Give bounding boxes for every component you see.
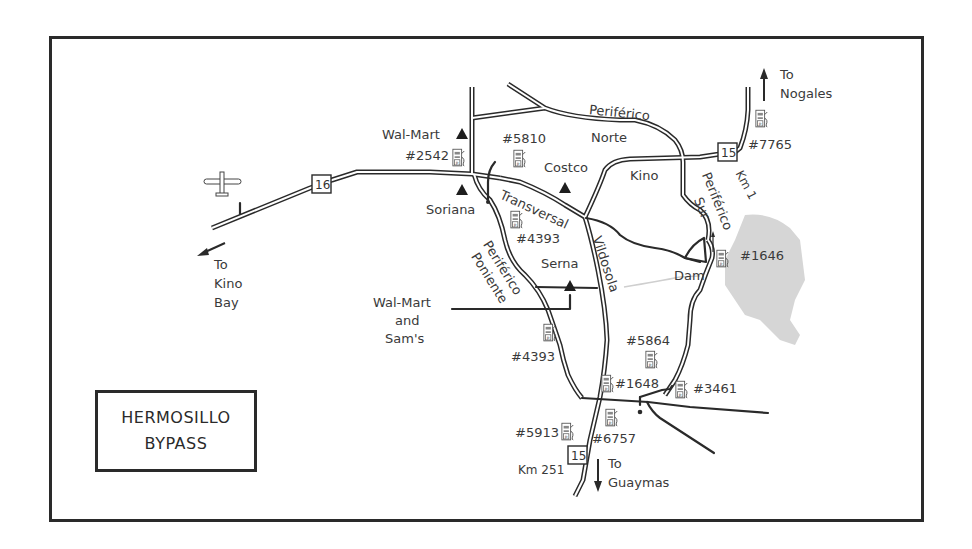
dest-kino-bay-kino: Kino <box>214 276 242 291</box>
gas-label-4393-south: #4393 <box>511 349 555 364</box>
dest-guaymas-to: To <box>608 456 622 471</box>
road-kino: Kino <box>630 168 658 183</box>
marker-dot <box>486 200 490 204</box>
gas-label-5810: #5810 <box>502 131 546 146</box>
map-title-line2: BYPASS <box>145 431 208 457</box>
gas-label-6757: #6757 <box>592 431 636 446</box>
store-soriana: Soriana <box>426 202 475 217</box>
store-walmart-sams-2: and <box>395 313 419 328</box>
road-periferico-norte-2: Norte <box>591 130 627 145</box>
road-dam: Dam <box>674 268 705 283</box>
dest-kino-bay-bay: Bay <box>214 295 239 310</box>
gas-label-1646: #1646 <box>740 248 784 263</box>
hwy-16-number: 16 <box>315 178 330 192</box>
gas-label-1648: #1648 <box>615 376 659 391</box>
airplane-icon <box>204 172 241 196</box>
gas-label-4393-north: #4393 <box>516 231 560 246</box>
store-walmart-sams-1: Wal-Mart <box>373 295 431 310</box>
km-251-label: Km 251 <box>518 463 564 478</box>
dest-kino-bay-to: To <box>214 257 228 272</box>
gas-label-5864: #5864 <box>626 333 670 348</box>
map-title-box: HERMOSILLO BYPASS <box>95 390 257 472</box>
gas-label-3461: #3461 <box>693 381 737 396</box>
marker-dot <box>638 410 643 415</box>
dest-guaymas-name: Guaymas <box>608 475 669 490</box>
hwy-15-south-number: 15 <box>571 449 586 463</box>
gas-label-7765: #7765 <box>748 137 792 152</box>
map-canvas: P <box>0 0 972 549</box>
store-walmart-sams-3: Sam's <box>385 331 424 346</box>
road-serna: Serna <box>541 256 579 271</box>
hwy-15-north-number: 15 <box>721 146 736 160</box>
store-costco: Costco <box>544 160 588 175</box>
map-title-line1: HERMOSILLO <box>121 405 230 431</box>
dest-nogales-to: To <box>780 67 794 82</box>
dest-nogales-name: Nogales <box>780 86 832 101</box>
lake-area <box>725 215 805 345</box>
store-walmart-north: Wal-Mart <box>382 127 440 142</box>
gas-label-2542: #2542 <box>405 148 449 163</box>
gas-label-5913: #5913 <box>515 425 559 440</box>
